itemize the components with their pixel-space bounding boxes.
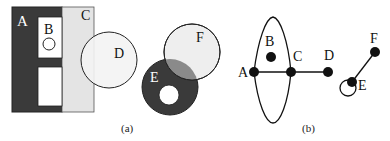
panel-b: A B C D E F (b) [238, 17, 380, 135]
node-e [347, 77, 357, 87]
node-label-c: C [293, 49, 302, 64]
label-c: C [81, 8, 90, 23]
label-b: B [44, 22, 53, 37]
caption-a: (a) [121, 122, 134, 135]
node-label-b: B [265, 34, 274, 49]
label-e: E [150, 70, 159, 85]
node-c [286, 67, 296, 77]
label-a: A [17, 13, 28, 29]
node-label-e: E [358, 78, 367, 93]
label-f: F [196, 30, 204, 45]
node-label-f: F [370, 31, 378, 46]
node-a [249, 67, 259, 77]
label-d: D [114, 46, 124, 61]
node-d [323, 67, 333, 77]
region-e-hole [159, 85, 179, 105]
caption-b: (b) [302, 122, 315, 135]
node-b [266, 52, 276, 62]
node-label-a: A [238, 65, 249, 80]
region-d [81, 32, 137, 88]
region-a-hole [38, 67, 62, 106]
edge-a-c-lower [254, 72, 291, 123]
node-label-d: D [324, 48, 334, 63]
figure-canvas: A B C D E F (a) A B C D E F (b) [0, 0, 390, 141]
node-f [370, 47, 380, 57]
panel-a: A B C D E F (a) [12, 7, 220, 135]
